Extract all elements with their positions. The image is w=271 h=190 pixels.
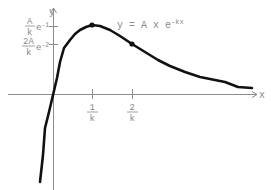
equation-label: y = A x e-kx (117, 18, 184, 31)
svg-text:2: 2 (130, 103, 135, 113)
y-tick-label-1: A k e-1 (25, 17, 49, 38)
svg-text:e-2: e-2 (36, 42, 49, 53)
axes (8, 8, 257, 190)
inflection-point (129, 41, 134, 46)
x-tick-label-1: 1 k (87, 103, 98, 124)
svg-text:1: 1 (90, 103, 95, 113)
curve (40, 25, 252, 182)
function-graph: y x y = A x e-kx A k e-1 2A k e-2 1 k 2 … (0, 0, 271, 190)
svg-text:k: k (90, 114, 95, 124)
svg-text:k: k (130, 114, 135, 124)
svg-text:2A: 2A (23, 37, 34, 47)
svg-text:k: k (26, 48, 31, 58)
svg-text:e-1: e-1 (36, 22, 49, 33)
x-tick-label-2: 2 k (127, 103, 138, 124)
y-tick-label-2: 2A k e-2 (22, 37, 49, 58)
svg-text:A: A (27, 17, 33, 27)
maximum-point (89, 22, 94, 27)
x-axis-label: x (259, 90, 265, 101)
y-axis-label: y (49, 7, 55, 18)
